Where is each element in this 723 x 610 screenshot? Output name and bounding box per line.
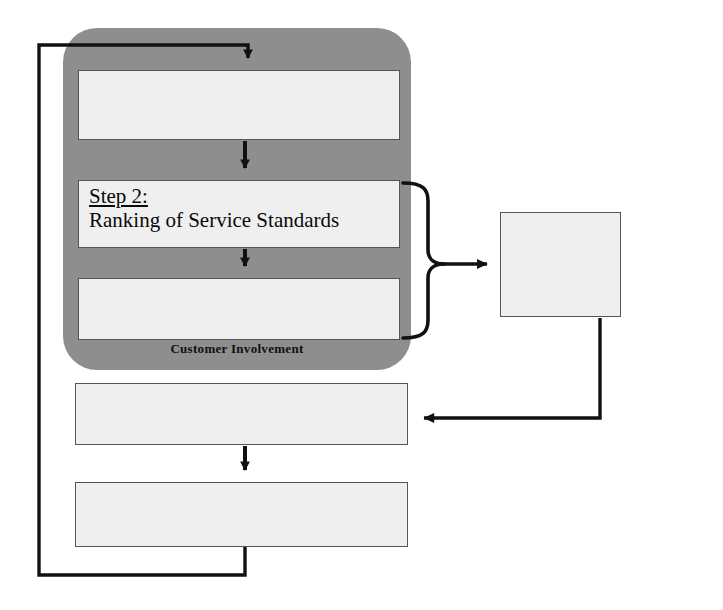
process-box-target-text	[79, 279, 399, 283]
process-box-identify-text	[79, 71, 399, 75]
process-box-resources-text	[501, 213, 620, 217]
customer-involvement-label: Customer Involvement	[63, 341, 411, 357]
process-box-implement-text	[76, 483, 407, 487]
connector-brace-to-resources	[403, 183, 487, 338]
process-box-ranking[interactable]: Step 2:Ranking of Service Standards	[78, 180, 400, 248]
process-box-target[interactable]	[78, 278, 400, 340]
process-box-resources[interactable]	[500, 212, 621, 317]
process-box-gap[interactable]	[75, 383, 408, 445]
process-box-ranking-text: Ranking of Service Standards	[89, 208, 339, 232]
process-box-identify[interactable]	[78, 70, 400, 140]
diagram-canvas: Customer Involvement Step 2:Ranking of S…	[0, 0, 723, 610]
process-box-implement[interactable]	[75, 482, 408, 547]
process-box-gap-text	[76, 384, 407, 388]
process-box-ranking-body: Step 2:Ranking of Service Standards	[79, 181, 399, 232]
process-box-ranking-step: Step 2:	[89, 185, 148, 209]
connector-resources-to-gap	[424, 318, 600, 418]
